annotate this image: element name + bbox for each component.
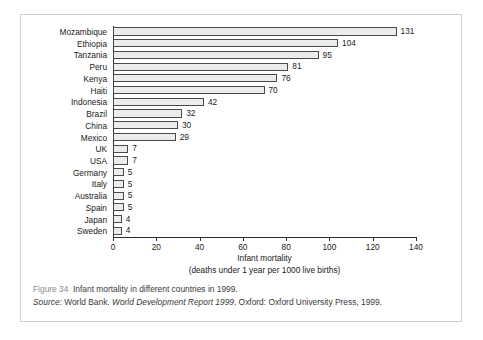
bar-row: 131 (113, 26, 416, 38)
category-label: Germany (73, 167, 107, 179)
bar-row: 30 (113, 120, 416, 132)
bar-row: 81 (113, 61, 416, 73)
x-axis-tick-label: 40 (195, 242, 204, 252)
bar-value-label: 5 (128, 178, 133, 190)
bar-row: 5 (113, 167, 416, 179)
x-axis-title-sub: (deaths under 1 year per 1000 live birth… (113, 265, 416, 277)
category-label: Australia (75, 190, 107, 202)
bar-value-label: 131 (401, 25, 415, 37)
x-axis-tick (373, 237, 374, 241)
source-label: Source: (33, 297, 62, 307)
category-label: Sweden (77, 225, 107, 237)
bar-row: 29 (113, 132, 416, 144)
bar-row: 95 (113, 49, 416, 61)
source-publisher: World Bank. (64, 297, 109, 307)
bar-row: 4 (113, 214, 416, 226)
bar-value-label: 104 (342, 37, 356, 49)
category-label: UK (95, 143, 107, 155)
plot-area: 1311049581767042323029775555440204060801… (113, 26, 416, 237)
bar-value-label: 5 (128, 189, 133, 201)
bar-value-label: 70 (269, 84, 278, 96)
category-label: Mexico (81, 132, 107, 144)
bar-row: 4 (113, 225, 416, 237)
bar-row: 32 (113, 108, 416, 120)
x-axis-title: Infant mortality (deaths under 1 year pe… (113, 253, 416, 276)
caption-description: Infant mortality in different countries … (73, 284, 238, 294)
category-label: Peru (89, 61, 107, 73)
bar (113, 39, 338, 47)
bar (113, 98, 204, 106)
category-label: Spain (86, 202, 107, 214)
bar (113, 133, 176, 141)
bar-row: 42 (113, 96, 416, 108)
x-axis-tick-label: 80 (282, 242, 291, 252)
category-label: China (85, 120, 107, 132)
bar-value-label: 7 (132, 142, 137, 154)
bar (113, 63, 288, 71)
category-label: Ethiopia (77, 38, 107, 50)
bar-row: 5 (113, 178, 416, 190)
category-label: Japan (84, 214, 107, 226)
category-label: Italy (92, 178, 107, 190)
x-axis-tick-label: 100 (323, 242, 337, 252)
caption-figure-number: Figure 34 (33, 284, 68, 294)
source-report-title: World Development Report 1999 (112, 297, 234, 307)
figure-caption: Figure 34 Infant mortality in different … (33, 283, 453, 308)
bar-row: 70 (113, 85, 416, 97)
category-label: Indonesia (71, 96, 107, 108)
bar (113, 192, 124, 200)
x-axis-tick-label: 60 (238, 242, 247, 252)
bar-value-label: 32 (186, 107, 195, 119)
bar-row: 7 (113, 155, 416, 167)
x-axis-tick (416, 237, 417, 241)
bar-row: 7 (113, 143, 416, 155)
bar (113, 145, 128, 153)
x-axis-tick (200, 237, 201, 241)
x-axis-tick-label: 20 (152, 242, 161, 252)
category-label: Mozambique (59, 26, 107, 38)
bar (113, 74, 277, 82)
category-label: Kenya (83, 73, 107, 85)
category-label: Brazil (86, 108, 107, 120)
bar-value-label: 76 (281, 72, 290, 84)
bar (113, 86, 265, 94)
x-axis-tick (156, 237, 157, 241)
x-axis-title-main: Infant mortality (113, 253, 416, 265)
bar (113, 203, 124, 211)
x-axis-tick (243, 237, 244, 241)
bar (113, 51, 319, 59)
source-imprint: . Oxford: Oxford University Press, 1999. (234, 297, 382, 307)
bar-chart: MozambiqueEthiopiaTanzaniaPeruKenyaHaiti… (21, 15, 463, 273)
bar (113, 109, 182, 117)
bar (113, 215, 122, 223)
category-label: USA (90, 155, 107, 167)
bar (113, 121, 178, 129)
category-label: Tanzania (74, 49, 107, 61)
bar-value-label: 7 (132, 154, 137, 166)
category-label: Haiti (90, 85, 107, 97)
x-axis-tick-label: 120 (366, 242, 380, 252)
bar-value-label: 4 (126, 213, 131, 225)
bar-value-label: 42 (208, 96, 217, 108)
bar (113, 27, 397, 35)
caption-title-line: Figure 34 Infant mortality in different … (33, 283, 453, 296)
x-axis-tick (286, 237, 287, 241)
bar-row: 5 (113, 190, 416, 202)
caption-source-line: Source: World Bank. World Development Re… (33, 296, 453, 309)
bar (113, 227, 122, 235)
bar-row: 76 (113, 73, 416, 85)
bar-row: 104 (113, 38, 416, 50)
figure-frame: MozambiqueEthiopiaTanzaniaPeruKenyaHaiti… (20, 14, 462, 322)
x-axis-tick-label: 140 (409, 242, 423, 252)
category-axis: MozambiqueEthiopiaTanzaniaPeruKenyaHaiti… (21, 26, 111, 237)
bar (113, 156, 128, 164)
bar (113, 180, 124, 188)
x-axis-tick (329, 237, 330, 241)
bar-row: 5 (113, 202, 416, 214)
bar-value-label: 30 (182, 119, 191, 131)
bar-value-label: 29 (180, 131, 189, 143)
bar-value-label: 4 (126, 224, 131, 236)
bar-value-label: 95 (323, 49, 332, 61)
bar-value-label: 81 (292, 60, 301, 72)
x-axis-tick-label: 0 (111, 242, 116, 252)
